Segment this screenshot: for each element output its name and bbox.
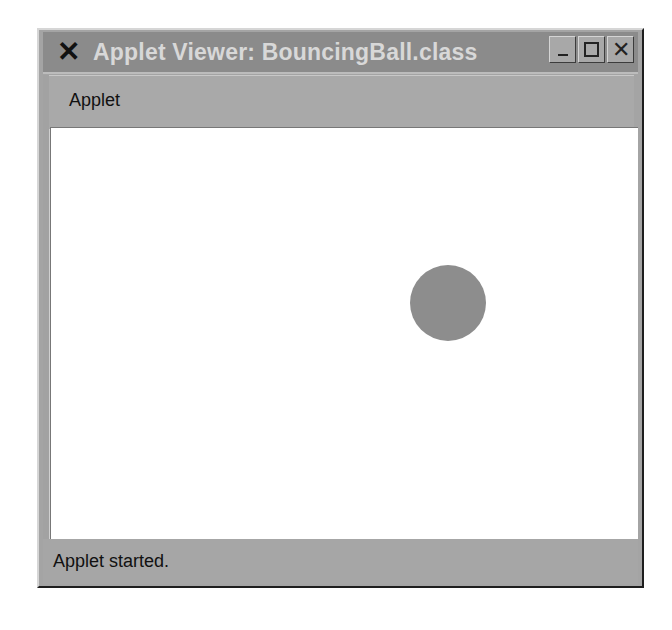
minimize-icon xyxy=(558,54,568,56)
status-bar: Applet started. xyxy=(43,539,638,584)
close-icon: ✕ xyxy=(608,37,633,62)
menu-applet[interactable]: Applet xyxy=(69,90,120,111)
x-window-menu-icon[interactable]: ✕ xyxy=(57,35,80,69)
maximize-icon xyxy=(584,42,599,57)
applet-viewer-window: ✕ Applet Viewer: BouncingBall.class ✕ Ap… xyxy=(37,28,644,588)
maximize-button[interactable] xyxy=(578,36,605,63)
close-button[interactable]: ✕ xyxy=(607,36,634,63)
status-text: Applet started. xyxy=(53,551,169,572)
applet-canvas[interactable] xyxy=(50,127,638,540)
bouncing-ball xyxy=(410,265,486,341)
menu-bar: Applet xyxy=(49,75,634,129)
window-title: Applet Viewer: BouncingBall.class xyxy=(93,36,478,68)
window-controls: ✕ xyxy=(549,36,634,63)
window-frame-left xyxy=(43,75,50,540)
minimize-button[interactable] xyxy=(549,36,576,63)
title-bar[interactable]: ✕ Applet Viewer: BouncingBall.class ✕ xyxy=(43,32,638,74)
